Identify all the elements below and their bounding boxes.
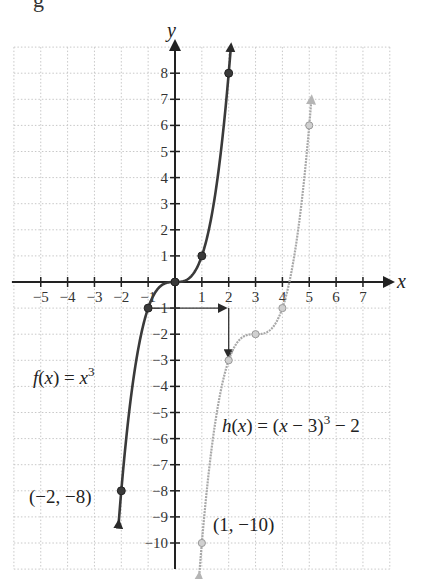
x-tick-label: 4 [279,289,287,305]
y-tick-label: 6 [161,117,169,133]
x-tick-label: −2 [113,289,129,305]
x-tick-label: −3 [86,289,102,305]
y-tick-label: 8 [161,65,169,81]
h-point [252,331,259,338]
x-tick-label: 7 [359,289,367,305]
y-tick-label: −6 [152,431,168,447]
cubic-transformation-graph: −5−4−3−2−11234567−10−9−8−7−6−5−4−3−2−112… [0,0,426,579]
h-point [198,539,205,546]
x-tick-label: −5 [33,289,49,305]
x-axis-label: x [396,270,406,292]
y-tick-label: 4 [161,170,169,186]
x-tick-label: 5 [306,289,314,305]
y-tick-label: −9 [152,509,168,525]
y-tick-label: 5 [161,144,169,160]
x-tick-label: 2 [225,289,233,305]
x-tick-label: 1 [198,289,206,305]
y-tick-label: −2 [152,326,168,342]
y-tick-label: −4 [152,378,168,394]
y-tick-label: 7 [161,91,169,107]
point-label-neg2-neg8: (−2, −8) [29,486,92,508]
y-tick-label: −3 [152,352,168,368]
h-point [225,357,232,364]
f-point [198,252,206,260]
x-tick-label: 6 [332,289,340,305]
h-equation-label: h(x) = (x − 3)3 − 2 [222,412,360,437]
y-tick-label: 3 [161,196,169,212]
f-point [225,69,233,77]
y-tick-label: 1 [161,248,169,264]
f-point [117,487,125,495]
y-tick-label: −10 [145,535,168,551]
x-tick-label: 3 [252,289,260,305]
f-equation-label: f(x) = x3 [33,364,95,389]
f-point [171,278,179,286]
y-tick-label: −7 [152,457,168,473]
point-label-1-neg10: (1, −10) [213,514,274,536]
y-tick-label: −8 [152,483,168,499]
y-tick-label: 2 [161,222,169,238]
x-tick-label: −4 [60,289,76,305]
y-tick-label: −5 [152,405,168,421]
f-point [144,304,152,312]
y-axis-label: y [165,19,176,42]
h-point [306,122,313,129]
h-point [279,305,286,312]
